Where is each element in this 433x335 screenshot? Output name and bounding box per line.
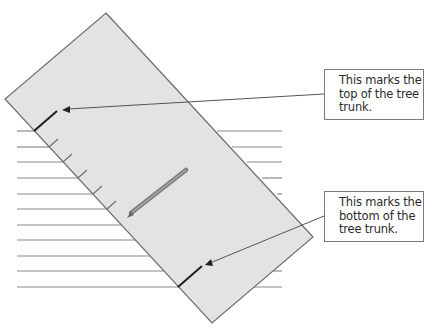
callout-top-of-trunk: This marks the top of the tree trunk. (324, 69, 424, 120)
diagram-canvas: This marks the top of the tree trunk. Th… (0, 0, 433, 335)
callout-line: top of the tree (339, 88, 418, 102)
callout-line: tree trunk. (339, 223, 418, 237)
diagram-graphic (0, 0, 433, 335)
callout-line: trunk. (339, 101, 418, 115)
callout-bottom-of-trunk: This marks the bottom of the tree trunk. (324, 191, 424, 242)
callout-line: bottom of the (339, 210, 418, 224)
callout-line: This marks the (339, 196, 418, 210)
paper-sheet (5, 13, 313, 323)
callout-line: This marks the (339, 74, 418, 88)
